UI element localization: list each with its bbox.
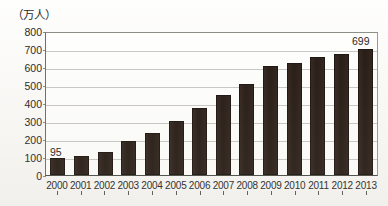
x-axis-tick-label: 2007 [211,180,235,191]
bar-slot [141,33,165,175]
x-axis-tick-mark [223,191,224,195]
y-axis-tick-labels: 0100200300400500600700800 [0,32,42,176]
y-axis-unit-label: （万人） [12,6,56,22]
bar-slot [188,33,212,175]
x-axis-tick-label: 2010 [283,180,307,191]
x-axis-tick-mark [271,191,272,195]
x-axis-tick-label: 2004 [140,180,164,191]
bar [334,54,349,175]
y-axis-tick-label: 500 [2,80,42,92]
bar [121,141,136,175]
bar-slot [330,33,354,175]
x-axis-tick-mark [81,191,82,195]
bar [287,63,302,176]
bar [98,152,113,175]
bar [74,156,89,175]
x-axis-tick-mark [247,191,248,195]
bar [50,158,65,175]
x-axis-tick-mark [366,191,367,195]
x-axis-tick-label: 2002 [93,180,117,191]
bar [192,108,207,176]
x-axis-tick-mark [128,191,129,195]
x-axis-tick-label: 2009 [259,180,283,191]
bar [310,57,325,175]
bar-slot [93,33,117,175]
bar-slot [235,33,259,175]
x-axis-tick-mark [57,191,58,195]
plot-area [45,32,378,176]
bars-container [46,33,377,175]
x-axis-tick-label: 2008 [235,180,259,191]
x-axis-tick-label: 2012 [330,180,354,191]
bar-slot [164,33,188,175]
bar [145,133,160,175]
x-axis-tick-mark [342,191,343,195]
bar [216,95,231,175]
x-axis-tick-mark [152,191,153,195]
y-axis-tick-label: 100 [2,152,42,164]
y-axis-tick-label: 800 [2,26,42,38]
bar [239,84,254,175]
bar-value-annotation-last: 699 [352,35,370,47]
y-axis-tick-mark [43,176,46,177]
bar-slot [259,33,283,175]
bar-slot [211,33,235,175]
x-axis-tick-mark [295,191,296,195]
y-axis-tick-label: 400 [2,98,42,110]
bar [169,121,184,175]
x-axis-tick-label: 2013 [354,180,378,191]
bar-slot [353,33,377,175]
x-axis-tick-mark [104,191,105,195]
y-axis-tick-label: 0 [2,170,42,182]
x-axis-tick-labels: 2000200120022003200420052006200720082009… [45,180,378,191]
y-axis-tick-label: 200 [2,134,42,146]
x-axis-tick-label: 2006 [188,180,212,191]
x-axis-tick-mark [200,191,201,195]
bar-slot [117,33,141,175]
bar-slot [282,33,306,175]
bar-value-annotation-first: 95 [50,146,62,158]
y-axis-tick-label: 600 [2,62,42,74]
bar-slot [306,33,330,175]
y-axis-tick-label: 300 [2,116,42,128]
x-axis-tick-label: 2005 [164,180,188,191]
x-axis-tick-label: 2000 [45,180,69,191]
x-axis-tick-mark [318,191,319,195]
bar-slot [70,33,94,175]
x-axis-tick-label: 2011 [307,180,331,191]
y-axis-tick-label: 700 [2,44,42,56]
x-axis-tick-mark [176,191,177,195]
x-axis-tick-label: 2001 [69,180,93,191]
x-axis-tick-label: 2003 [116,180,140,191]
bar [358,49,373,175]
bar-chart-figure: （万人） 0100200300400500600700800 200020012… [0,0,388,206]
bar [263,66,278,175]
